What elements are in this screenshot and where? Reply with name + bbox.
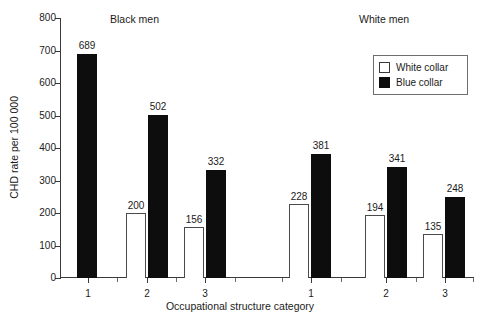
bar-value-label: 200 [128,199,145,212]
x-tick-mark [386,278,387,283]
x-tick-mark [205,278,206,283]
y-tick-label: 800 [16,11,56,24]
bar-black-1-blue: 689 [77,54,97,278]
x-tick-label-white-1: 1 [299,287,323,300]
x-tick-minor-5 [341,278,342,282]
x-tick-minor-1 [117,278,118,282]
x-tick-label-black-3: 3 [193,287,217,300]
y-tick-label: 200 [16,206,56,219]
bar-white-2-white: 194 [365,215,385,278]
y-tick-label: 500 [16,109,56,122]
x-tick-minor-4 [282,278,283,282]
x-tick-mark [311,278,312,283]
chd-rate-bar-chart: Black men White men CHD rate per 100 000… [0,0,480,322]
bar-value-label: 156 [186,213,203,226]
y-tick-label: 100 [16,239,56,252]
x-tick-mark [88,278,89,283]
x-tick-label-black-1: 1 [76,287,100,300]
bar-value-label: 381 [313,139,330,152]
bar-black-2-blue: 502 [148,115,168,278]
x-tick-mark [445,278,446,283]
bar-value-label: 689 [79,39,96,52]
x-tick-label-white-3: 3 [433,287,457,300]
bar-value-label: 332 [208,155,225,168]
bar-white-3-blue: 248 [445,197,465,278]
bar-value-label: 194 [367,201,384,214]
bar-value-label: 248 [447,182,464,195]
x-tick-mark [147,278,148,283]
bar-white-3-white: 135 [423,234,443,278]
bar-value-label: 341 [389,152,406,165]
bar-value-label: 135 [425,220,442,233]
y-axis-line [60,18,61,279]
x-tick-label-white-2: 2 [374,287,398,300]
x-tick-minor-6 [416,278,417,282]
x-tick-label-black-2: 2 [135,287,159,300]
y-tick-label: 0 [16,271,56,284]
bar-black-3-blue: 332 [206,170,226,278]
y-tick-label: 700 [16,44,56,57]
bar-white-1-blue: 381 [311,154,331,278]
y-tick-label: 400 [16,141,56,154]
y-tick-label: 600 [16,76,56,89]
bar-value-label: 228 [291,190,308,203]
y-tick-label: 300 [16,174,56,187]
plot-area: 8007006005004003002001000 123123 6892005… [60,18,473,278]
x-axis-title: Occupational structure category [0,299,480,313]
x-axis-line [60,277,474,278]
bar-black-2-white: 200 [126,213,146,278]
x-tick-minor-7 [473,278,474,282]
bar-white-1-white: 228 [289,204,309,278]
bar-value-label: 502 [150,100,167,113]
x-tick-minor-2 [176,278,177,282]
bar-black-3-white: 156 [184,227,204,278]
bar-white-2-blue: 341 [387,167,407,278]
x-tick-minor-3 [235,278,236,282]
